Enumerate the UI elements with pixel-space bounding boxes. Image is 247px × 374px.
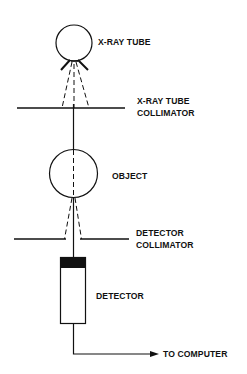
label-object: OBJECT — [112, 171, 147, 182]
xray-beam-fan — [62, 62, 89, 108]
label-detector-collimator-line2: COLLIMATOR — [136, 240, 194, 251]
detector-cap — [60, 257, 86, 268]
label-detector: DETECTOR — [96, 291, 144, 302]
label-detector-collimator-line1: DETECTOR — [136, 228, 184, 239]
label-to-computer: TO COMPUTER — [163, 349, 227, 360]
xray-tube-circle — [56, 25, 92, 61]
label-xray-tube-collimator-line2: COLLIMATOR — [137, 108, 195, 119]
label-xray-tube: X-RAY TUBE — [98, 37, 151, 48]
output-line — [74, 324, 154, 354]
ct-schematic-drawing — [0, 0, 247, 374]
diagram-canvas: X-RAY TUBE X-RAY TUBE COLLIMATOR OBJECT … — [0, 0, 247, 374]
arrow-head-icon — [150, 351, 159, 357]
label-xray-tube-collimator-line1: X-RAY TUBE — [137, 96, 190, 107]
